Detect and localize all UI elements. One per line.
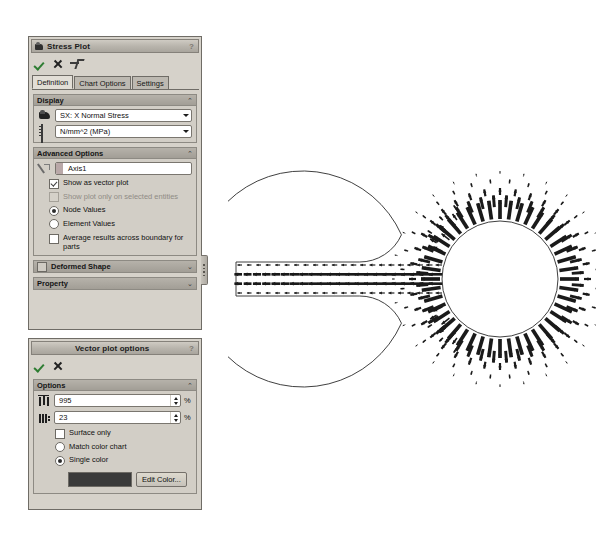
ok-check-icon[interactable] (35, 59, 46, 69)
vector-plot-titlebar: Vector plot options ? (31, 341, 199, 355)
units-ruler-icon (38, 125, 52, 138)
color-row: Edit Color... (68, 472, 192, 487)
tab-definition[interactable]: Definition (32, 75, 73, 89)
reference-axis-value: Axis1 (63, 164, 86, 173)
vector-density-stepper[interactable] (170, 412, 180, 423)
vector-density-input[interactable]: 23 (54, 411, 181, 424)
match-color-chart-radio[interactable]: Match color chart (55, 442, 192, 453)
vector-help-icon[interactable]: ? (189, 344, 195, 353)
vector-options-collapse-chevron-icon[interactable]: ⌃ (187, 382, 193, 389)
average-results-label: Average results across boundary for part… (63, 233, 191, 251)
vector-options-header[interactable]: Options ⌃ (34, 380, 196, 391)
edit-color-button[interactable]: Edit Color... (136, 472, 187, 487)
vector-size-unit: % (184, 396, 192, 405)
advanced-options-group: Advanced Options ⌃ Axis1 Show as vector … (33, 147, 197, 256)
vector-options-group: Options ⌃ 995 % (33, 379, 197, 494)
deformed-shape-checkbox-box[interactable] (37, 262, 47, 272)
vector-size-decrement-icon (174, 402, 178, 405)
vector-cancel-x-icon[interactable] (53, 361, 63, 371)
units-combo-row: N/mm^2 (MPa) (38, 125, 192, 138)
average-results-checkbox[interactable]: Average results across boundary for part… (49, 233, 192, 251)
vector-size-increment-icon (174, 397, 178, 400)
element-values-radio[interactable]: Element Values (49, 219, 192, 230)
component-combo-value: SX: X Normal Stress (60, 111, 129, 120)
display-collapse-chevron-icon[interactable]: ⌃ (187, 97, 193, 104)
show-as-vector-plot-checkbox-box (49, 179, 59, 189)
single-color-radio-dot (55, 456, 65, 466)
vector-size-input[interactable]: 995 (54, 394, 181, 407)
vector-plot-confirm-row (29, 355, 201, 375)
vector-options-title: Options (37, 381, 65, 390)
element-values-label: Element Values (63, 219, 115, 228)
units-combo[interactable]: N/mm^2 (MPa) (55, 125, 192, 138)
advanced-collapse-chevron-icon[interactable]: ⌃ (187, 150, 193, 157)
display-group: Display ⌃ SX: X Normal Stress N/mm^ (33, 94, 197, 143)
vector-density-increment-icon (174, 414, 178, 417)
panel-resize-grip[interactable] (201, 255, 208, 285)
vector-plot-title: Vector plot options (35, 344, 189, 353)
stress-plot-titlebar: Stress Plot ? (31, 39, 199, 53)
units-chevron-down-icon[interactable] (180, 126, 191, 137)
reference-axis-swatch (56, 163, 63, 174)
node-values-label: Node Values (63, 205, 105, 214)
cancel-x-icon[interactable] (53, 59, 63, 69)
surface-only-checkbox-box (55, 429, 65, 439)
vector-density-row: 23 % (38, 411, 192, 424)
vector-density-decrement-icon (174, 419, 178, 422)
surface-only-checkbox[interactable]: Surface only (55, 428, 192, 439)
plot-component-icon (38, 109, 52, 122)
show-plot-selected-entities-checkbox-box (49, 192, 59, 202)
vector-options-body: 995 % 23 (34, 391, 196, 493)
display-group-body: SX: X Normal Stress N/mm^2 (MPa) (34, 106, 196, 142)
advanced-options-header[interactable]: Advanced Options ⌃ (34, 148, 196, 159)
deformed-shape-label: Deformed Shape (51, 262, 111, 271)
stress-plot-confirm-row (29, 53, 201, 73)
vector-plot-options-panel: Vector plot options ? Options ⌃ 995 (28, 338, 202, 510)
tab-chart-options[interactable]: Chart Options (74, 76, 130, 89)
vector-density-unit: % (184, 413, 192, 422)
stress-plot-icon (35, 42, 44, 51)
match-color-chart-label: Match color chart (69, 442, 127, 451)
stress-plot-tabs: Definition Chart Options Settings (32, 75, 199, 90)
units-combo-value: N/mm^2 (MPa) (60, 127, 110, 136)
show-plot-selected-entities-checkbox: Show plot only on selected entities (49, 192, 192, 203)
reference-axis-row: Axis1 (38, 162, 192, 175)
stress-plot-title: Stress Plot (47, 42, 90, 51)
match-color-chart-radio-dot (55, 442, 65, 452)
display-group-header[interactable]: Display ⌃ (34, 95, 196, 106)
screenshot-root: Stress Plot ? Definition Chart Options S… (0, 0, 598, 534)
surface-only-label: Surface only (69, 428, 111, 437)
deformed-shape-expand-chevron-icon[interactable]: ⌄ (187, 263, 193, 270)
component-combo-row: SX: X Normal Stress (38, 109, 192, 122)
show-plot-selected-entities-label: Show plot only on selected entities (63, 192, 178, 201)
vector-size-icon (38, 395, 51, 407)
display-group-title: Display (37, 96, 64, 105)
vector-plot-graphics-area[interactable] (228, 150, 596, 410)
single-color-label: Single color (69, 455, 108, 464)
vector-size-value: 995 (59, 396, 72, 405)
node-values-radio-dot (49, 206, 59, 216)
node-values-radio[interactable]: Node Values (49, 205, 192, 216)
tab-settings[interactable]: Settings (132, 76, 169, 89)
reference-axis-field[interactable]: Axis1 (55, 162, 192, 175)
vector-density-value: 23 (59, 413, 67, 422)
show-as-vector-plot-label: Show as vector plot (63, 178, 128, 187)
show-as-vector-plot-checkbox[interactable]: Show as vector plot (49, 178, 192, 189)
vector-size-stepper[interactable] (170, 395, 180, 406)
keep-visible-pin-icon[interactable] (70, 59, 81, 69)
component-chevron-down-icon[interactable] (180, 110, 191, 121)
deformed-shape-section[interactable]: Deformed Shape ⌄ (33, 260, 197, 273)
stress-vector-arrows (234, 171, 596, 387)
vector-density-icon (38, 412, 51, 424)
single-color-swatch[interactable] (68, 472, 132, 487)
property-expand-chevron-icon[interactable]: ⌄ (187, 280, 193, 287)
property-label: Property (37, 279, 68, 288)
single-color-radio[interactable]: Single color (55, 455, 192, 466)
property-section[interactable]: Property ⌄ (33, 277, 197, 290)
vector-ok-check-icon[interactable] (35, 361, 46, 371)
stress-plot-panel: Stress Plot ? Definition Chart Options S… (28, 36, 202, 330)
help-icon[interactable]: ? (189, 42, 195, 51)
component-combo[interactable]: SX: X Normal Stress (55, 109, 192, 122)
element-values-radio-dot (49, 219, 59, 229)
advanced-options-body: Axis1 Show as vector plot Show plot only… (34, 159, 196, 255)
